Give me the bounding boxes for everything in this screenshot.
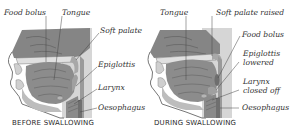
label-soft-palate-raised: Soft palate raised [216,9,284,17]
label-larynx-closed-line2: closed off [243,87,280,95]
label-larynx: Larynx [98,84,125,92]
label-food-bolus: Food bolus [4,9,46,17]
label-oesophagus: Oesophagus [242,104,289,112]
label-epiglottis-lowered-line2: lowered [243,59,274,67]
label-tongue: Tongue [62,9,90,17]
label-oesophagus: Oesophagus [98,104,145,112]
label-soft-palate: Soft palate [100,27,142,35]
label-epiglottis-lowered-line1: Epiglottis [243,50,280,58]
label-epiglottis: Epiglottis [98,61,135,69]
during-swallowing-panel: Tongue Soft palate raised Food bolus Epi… [146,0,292,130]
caption-before-swallowing: BEFORE SWALLOWING [12,119,94,127]
label-tongue: Tongue [160,9,188,17]
before-swallowing-panel: Food bolus Tongue Soft palate Epiglottis… [0,0,146,130]
caption-during-swallowing: DURING SWALLOWING [154,119,236,127]
label-food-bolus: Food bolus [242,31,284,39]
label-larynx-closed-line1: Larynx [243,78,270,86]
